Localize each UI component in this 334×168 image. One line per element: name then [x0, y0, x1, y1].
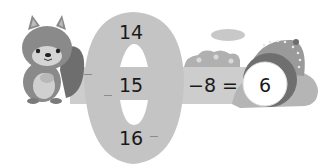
subtraction-puzzle-scene: 14 15 16 − 8 = 6 — [0, 0, 334, 168]
operand: 8 — [204, 76, 216, 95]
tick-mark — [84, 74, 92, 75]
equals-sign: = — [222, 76, 238, 95]
wheel-number-bottom: 16 — [119, 129, 143, 148]
tick-mark — [150, 136, 158, 137]
wheel-number-top: 14 — [119, 23, 143, 42]
scene-illustration — [0, 0, 334, 168]
cloud-icon — [211, 29, 245, 41]
wheel-number-middle: 15 — [119, 76, 143, 95]
tick-mark — [104, 95, 112, 96]
squirrel-icon — [22, 15, 84, 104]
operator-minus: − — [188, 76, 204, 95]
answer-value: 6 — [259, 76, 271, 95]
